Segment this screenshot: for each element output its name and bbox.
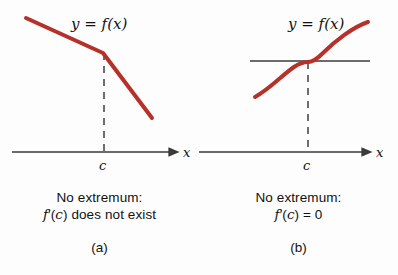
function-curve-a [26, 18, 152, 118]
caption-b-line2: f′(c) = 0 [199, 206, 398, 223]
tick-label-c-b: c [303, 158, 311, 173]
function-label-a: y = f(x) [70, 15, 127, 33]
caption-a-line2: f′(c) does not exist [0, 206, 199, 223]
caption-b-paren-close: ) [295, 207, 300, 222]
panel-index-b: (b) [199, 240, 398, 255]
panel-b: x c y = f(x) No extremum: f′(c) = 0 (b) [199, 0, 398, 275]
caption-b-line1: No extremum: [256, 190, 342, 205]
caption-a-c: c [55, 206, 63, 222]
panel-a-plot: x c y = f(x) [0, 0, 199, 180]
panel-index-a: (a) [0, 240, 199, 255]
x-axis-label-b: x [376, 145, 384, 160]
caption-a: No extremum: f′(c) does not exist [0, 189, 199, 223]
tick-label-c-a: c [99, 158, 107, 173]
caption-b-rest: = 0 [303, 207, 322, 222]
caption-a-rest: does not exist [71, 207, 156, 222]
extremum-figure: x c y = f(x) No extremum: f′(c) does not… [0, 0, 398, 275]
caption-b-c: c [287, 206, 295, 222]
x-axis-label-a: x [183, 145, 191, 160]
function-curve-b [255, 22, 368, 97]
function-label-b: y = f(x) [287, 15, 344, 33]
caption-b: No extremum: f′(c) = 0 [199, 189, 398, 223]
caption-a-paren-close: ) [63, 207, 68, 222]
caption-a-line1: No extremum: [57, 190, 143, 205]
panel-b-plot: x c y = f(x) [199, 0, 398, 180]
panel-a: x c y = f(x) No extremum: f′(c) does not… [0, 0, 199, 275]
